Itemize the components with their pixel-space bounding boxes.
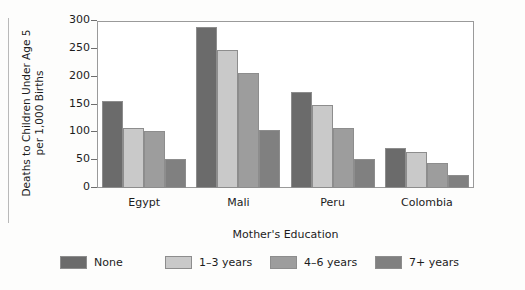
legend-item[interactable]: 1–3 years [165,256,270,269]
y-axis-tick-mark [91,104,97,105]
y-axis-tick-label: 150 [50,97,90,110]
bar-chart-figure: Deaths to Children Under Age 5 per 1,000… [0,0,525,290]
legend-label: None [94,256,123,269]
bar [427,163,448,188]
bar [123,128,144,188]
y-axis-tick-mark [91,187,97,188]
bar [165,159,186,188]
legend-swatch-icon [375,256,402,269]
legend-item[interactable]: 4–6 years [270,256,375,269]
y-axis-tick-label: 50 [50,152,90,165]
y-axis-tick-label: 200 [50,69,90,82]
chart-legend: None1–3 years4–6 years7+ years [60,256,480,269]
y-axis-tick-mark [91,159,97,160]
bar [196,27,217,188]
bar-group [196,21,280,188]
bar [448,175,469,188]
bar [406,152,427,188]
bar [385,148,406,188]
bar [144,131,165,188]
legend-label: 1–3 years [199,256,252,269]
page-edge-rule [8,18,9,223]
y-axis-tick-label: 250 [50,41,90,54]
y-axis-tick-label: 300 [50,13,90,26]
y-axis-title: Deaths to Children Under Age 5 per 1,000… [20,18,46,208]
y-axis-tick-mark [91,131,97,132]
y-axis-tick-label: 100 [50,124,90,137]
y-axis-tick-mark [91,76,97,77]
bar [259,130,280,188]
legend-swatch-icon [270,256,297,269]
bar [217,50,238,188]
legend-item[interactable]: 7+ years [375,256,480,269]
bar [238,73,259,188]
bar-group [385,21,469,188]
bar [291,92,312,188]
bar-group [102,21,186,188]
bar-group [291,21,375,188]
legend-label: 7+ years [409,256,459,269]
y-axis-tick-mark [91,48,97,49]
legend-item[interactable]: None [60,256,165,269]
legend-swatch-icon [165,256,192,269]
bar [354,159,375,188]
x-axis-category-label: Colombia [372,196,482,209]
bar [312,105,333,189]
bar [333,128,354,188]
legend-swatch-icon [60,256,87,269]
y-axis-tick-label: 0 [50,180,90,193]
bar [102,101,123,188]
x-axis-title: Mother's Education [97,228,474,241]
legend-label: 4–6 years [304,256,357,269]
y-axis-tick-mark [91,20,97,21]
